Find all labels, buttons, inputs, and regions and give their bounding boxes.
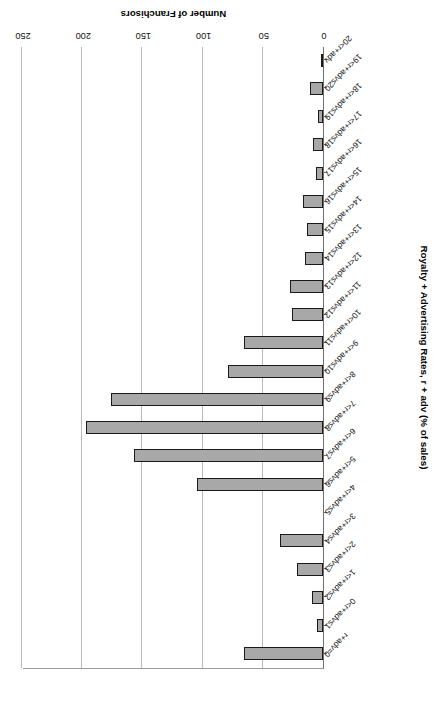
bar bbox=[244, 647, 323, 660]
bar bbox=[244, 336, 323, 349]
bar bbox=[291, 280, 324, 293]
category-tick-labels: r+adv=00<r+adv≤11<r+adv≤22<r+adv≤33<r+ad… bbox=[324, 47, 444, 669]
bar bbox=[228, 365, 323, 378]
value-tick-label: 50 bbox=[259, 31, 269, 41]
bar-row bbox=[22, 640, 323, 668]
bar bbox=[318, 110, 323, 123]
bar-row bbox=[22, 414, 323, 442]
bar-row bbox=[22, 442, 323, 470]
bar-row bbox=[22, 216, 323, 244]
bar-row bbox=[22, 46, 323, 74]
value-axis-title-wrap: Number of Franchisors bbox=[23, 6, 324, 20]
value-tick-label: 200 bbox=[76, 31, 91, 41]
value-tick-label: 150 bbox=[136, 31, 151, 41]
bar bbox=[316, 167, 323, 180]
rotated-chart-canvas: Royalty + Advertising Rates, r + adv (% … bbox=[0, 0, 444, 713]
bar-row bbox=[22, 159, 323, 187]
bar bbox=[313, 138, 323, 151]
bar bbox=[292, 308, 323, 321]
plot-area bbox=[23, 47, 324, 669]
bar-row bbox=[22, 329, 323, 357]
value-tick-label: 100 bbox=[196, 31, 211, 41]
bar bbox=[111, 393, 323, 406]
value-tick-label: 250 bbox=[15, 31, 30, 41]
bar bbox=[297, 563, 323, 576]
bar bbox=[317, 619, 323, 632]
bar-series bbox=[23, 47, 323, 668]
bar-row bbox=[22, 583, 323, 611]
chart-figure: Royalty + Advertising Rates, r + adv (% … bbox=[0, 0, 444, 713]
bar-row bbox=[22, 244, 323, 272]
bar bbox=[310, 82, 323, 95]
bar bbox=[280, 534, 323, 547]
bar-row bbox=[22, 131, 323, 159]
value-tick-label: 0 bbox=[321, 31, 326, 41]
bar-row bbox=[22, 611, 323, 639]
bar-row bbox=[22, 357, 323, 385]
bar bbox=[307, 223, 323, 236]
bar-row bbox=[22, 187, 323, 215]
bar-row bbox=[22, 300, 323, 328]
bar-row bbox=[22, 470, 323, 498]
bar-row bbox=[22, 385, 323, 413]
bar bbox=[305, 252, 323, 265]
bar-row bbox=[22, 74, 323, 102]
bar bbox=[134, 449, 323, 462]
bar bbox=[303, 195, 323, 208]
bar bbox=[321, 54, 323, 67]
bar bbox=[312, 591, 323, 604]
bar-row bbox=[22, 527, 323, 555]
bar-row bbox=[22, 272, 323, 300]
bar-row bbox=[22, 103, 323, 131]
histogram-chart: Royalty + Advertising Rates, r + adv (% … bbox=[0, 0, 444, 713]
value-axis-title: Number of Franchisors bbox=[23, 9, 324, 20]
bar bbox=[86, 421, 323, 434]
category-tick-label: r+adv=0 bbox=[322, 631, 351, 660]
bar-row bbox=[22, 498, 323, 526]
bar bbox=[197, 478, 323, 491]
bar-row bbox=[22, 555, 323, 583]
